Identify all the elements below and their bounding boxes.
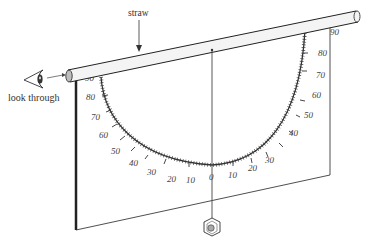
- svg-text:90: 90: [330, 27, 340, 37]
- straw-arrow-head: [136, 45, 142, 52]
- look-through-label: look through: [8, 92, 59, 103]
- svg-text:20: 20: [248, 163, 258, 173]
- clinometer-diagram: 90 80 70 60 50 40 30 20 10 0 10 20 30 40…: [0, 0, 368, 246]
- svg-text:70: 70: [316, 70, 326, 80]
- string-anchor: [211, 49, 213, 51]
- sight-arrow-head: [62, 73, 66, 77]
- svg-text:40: 40: [289, 128, 299, 138]
- svg-text:80: 80: [318, 48, 328, 58]
- svg-text:40: 40: [129, 158, 139, 168]
- hex-nut-weight-icon: [204, 218, 220, 236]
- scale-label-zero: 0: [209, 172, 214, 182]
- straw-label: straw: [128, 8, 149, 18]
- svg-text:30: 30: [146, 167, 157, 177]
- svg-text:50: 50: [111, 146, 121, 156]
- svg-text:20: 20: [167, 174, 177, 184]
- svg-text:10: 10: [186, 175, 196, 185]
- eye-icon: [24, 70, 43, 88]
- svg-text:10: 10: [228, 170, 238, 180]
- svg-text:50: 50: [304, 110, 314, 120]
- svg-text:30: 30: [264, 155, 275, 165]
- svg-text:80: 80: [86, 92, 96, 102]
- svg-text:60: 60: [312, 90, 322, 100]
- svg-text:70: 70: [91, 112, 101, 122]
- sight-line: [47, 75, 63, 78]
- svg-text:60: 60: [99, 130, 109, 140]
